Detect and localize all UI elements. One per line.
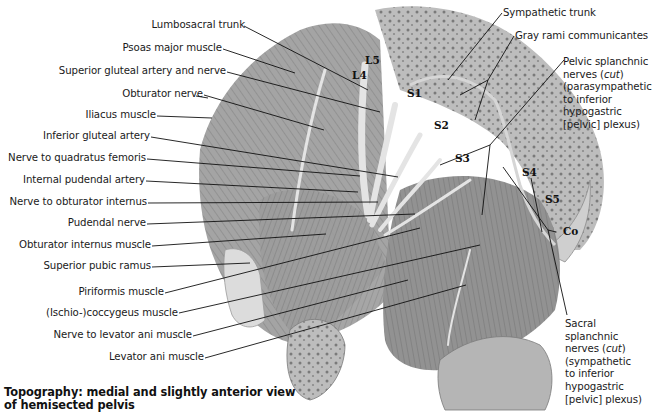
label-nerve-to-levator-ani-muscle: Nerve to levator ani muscle <box>20 329 192 341</box>
vertebra-label-s5: S5 <box>545 193 560 205</box>
label-iliacus-muscle: Iliacus muscle <box>60 109 156 121</box>
label-inferior-gluteal-artery: Inferior gluteal artery <box>20 130 150 142</box>
label-gray-rami-communicantes: Gray rami communicantes <box>515 30 648 42</box>
label-psoas-major-muscle: Psoas major muscle <box>100 42 222 54</box>
vertebra-label-s4: S4 <box>522 166 537 178</box>
label-superior-pubic-ramus: Superior pubic ramus <box>20 260 151 272</box>
label-piriformis-muscle: Piriformis muscle <box>40 286 164 298</box>
label-internal-pudendal-artery: Internal pudendal artery <box>10 174 145 186</box>
label-ischio-coccygeus-muscle: (Ischio-)coccygeus muscle <box>20 307 178 319</box>
label-obturator-internus-muscle: Obturator internus muscle <box>2 239 151 251</box>
vertebra-label-s3: S3 <box>455 152 470 164</box>
vertebra-label-s2: S2 <box>434 119 449 131</box>
vertebra-label-co: Co <box>563 225 578 237</box>
vertebra-label-l5: L5 <box>365 54 380 66</box>
label-levator-ani-muscle: Levator ani muscle <box>60 351 204 363</box>
label-pelvic-splanchnic-nerves: Pelvic splanchnic nerves (cut) (parasymp… <box>563 56 653 132</box>
label-lumbosacral-trunk: Lumbosacral trunk <box>120 19 245 31</box>
vertebra-label-s1: S1 <box>407 87 422 99</box>
pelvic-floor-muscles <box>383 176 560 370</box>
label-superior-gluteal-artery-and-nerve: Superior gluteal artery and nerve <box>20 65 226 77</box>
label-sympathetic-trunk: Sympathetic trunk <box>503 7 596 19</box>
figure-caption: Topography: medial and slightly anterior… <box>4 386 295 412</box>
label-sacral-splanchnic-nerves: Sacral splanchnic nerves (cut) (sympathe… <box>565 318 653 406</box>
label-nerve-to-obturator-internus: Nerve to obturator internus <box>2 196 147 208</box>
label-nerve-to-quadratus-femoris: Nerve to quadratus femoris <box>2 152 146 164</box>
vertebra-label-l4: L4 <box>352 69 367 81</box>
label-obturator-nerve: Obturator nerve <box>80 88 203 100</box>
label-pudendal-nerve: Pudendal nerve <box>40 217 146 229</box>
ischial-bone-region <box>287 319 345 400</box>
anatomy-figure: Lumbosacral trunk Psoas major muscle Sup… <box>0 0 653 415</box>
